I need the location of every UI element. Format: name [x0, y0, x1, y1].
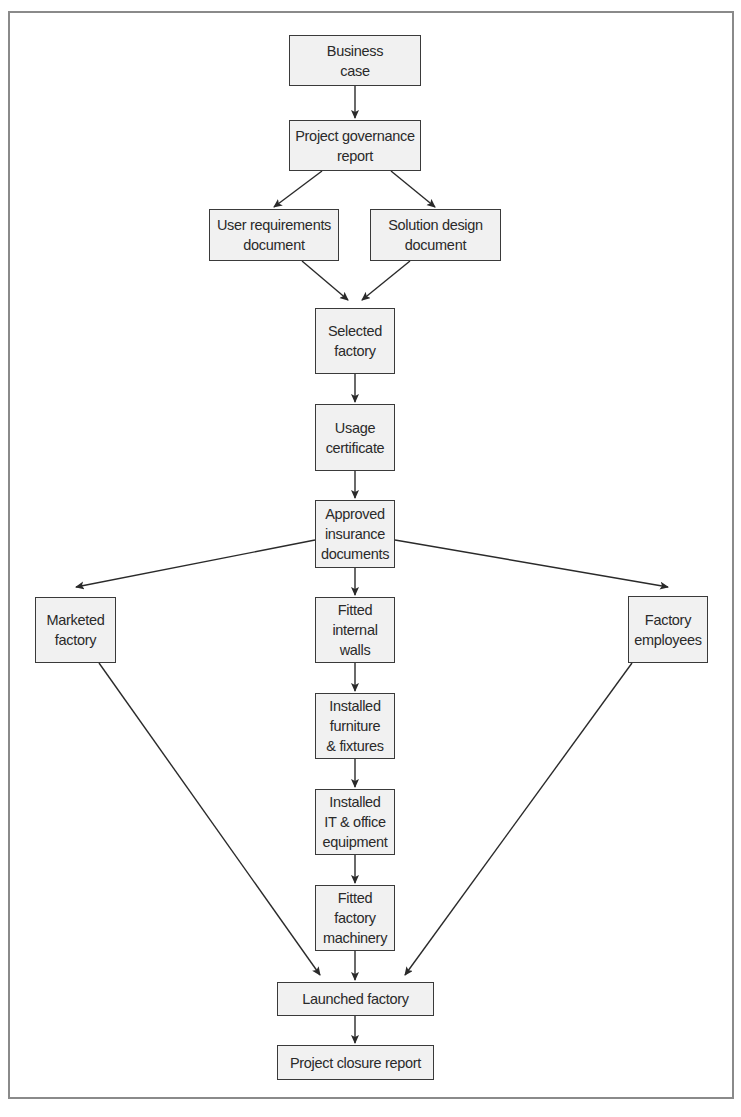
node-user-req: User requirements document — [209, 209, 339, 261]
node-it: Installed IT & office equipment — [315, 789, 395, 855]
node-launched: Launched factory — [277, 982, 434, 1016]
arrow-governance-to-solution — [391, 171, 435, 207]
arrow-insurance-to-marketed — [76, 540, 315, 587]
arrow-solution-to-selected — [362, 261, 410, 300]
arrow-user_req-to-selected — [302, 261, 348, 300]
node-machinery: Fitted factory machinery — [315, 885, 395, 951]
node-walls: Fitted internal walls — [315, 597, 395, 663]
arrow-marketed-to-launched — [99, 663, 320, 975]
node-governance: Project governance report — [289, 120, 421, 171]
arrow-governance-to-user_req — [274, 171, 322, 207]
node-selected: Selected factory — [315, 308, 395, 374]
node-closure: Project closure report — [277, 1045, 434, 1080]
node-employees: Factory employees — [628, 596, 708, 663]
node-furniture: Installed furniture & fixtures — [315, 693, 395, 759]
node-business-case: Business case — [289, 35, 421, 86]
arrow-insurance-to-employees — [395, 540, 668, 587]
arrow-employees-to-launched — [405, 663, 632, 975]
node-solution: Solution design document — [370, 209, 501, 261]
node-usage: Usage certificate — [315, 404, 395, 471]
node-insurance: Approved insurance documents — [315, 500, 395, 568]
node-marketed: Marketed factory — [35, 597, 116, 663]
